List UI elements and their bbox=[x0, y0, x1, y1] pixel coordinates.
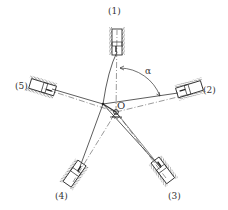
cylinder-label-5: (5) bbox=[15, 81, 28, 91]
cylinder-2 bbox=[175, 77, 206, 100]
cylinder-5 bbox=[26, 75, 57, 98]
angle-alpha-arc bbox=[120, 66, 160, 96]
cylinder-label-3: (3) bbox=[168, 191, 181, 201]
cylinder-4 bbox=[59, 158, 88, 190]
angle-label: α bbox=[145, 66, 151, 76]
cylinder-label-2: (2) bbox=[203, 85, 216, 95]
connecting-rods bbox=[52, 52, 178, 172]
mechanism-drawing bbox=[0, 0, 228, 210]
cylinder-3 bbox=[149, 155, 179, 187]
cylinder-label-4: (4) bbox=[55, 191, 68, 201]
cylinder-label-1: (1) bbox=[108, 6, 121, 16]
center-label: O bbox=[117, 100, 125, 111]
radial-engine-diagram: O α (1) (2) (3) (4) (5) bbox=[0, 0, 228, 210]
crank-pin-icon bbox=[102, 103, 105, 106]
